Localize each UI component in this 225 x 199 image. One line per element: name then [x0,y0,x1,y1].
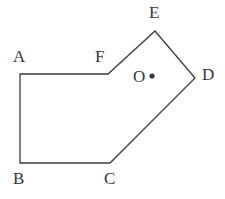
vertex-label-c: C [104,170,115,187]
vertex-label-f: F [95,48,104,65]
vertex-label-d: D [202,66,214,83]
interior-point-label-o: O [133,68,145,85]
geometry-figure: A B C D E F O [0,0,225,199]
interior-point-o-dot [149,73,154,78]
vertex-label-e: E [149,4,159,21]
vertex-label-a: A [13,48,25,65]
hexagon-abcdef-outline [20,31,195,163]
vertex-label-b: B [13,170,24,187]
